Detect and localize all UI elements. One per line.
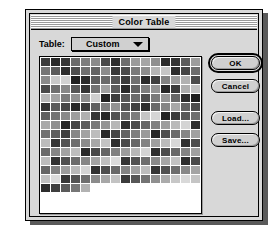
color-swatch[interactable]	[101, 157, 111, 166]
color-swatch[interactable]	[181, 58, 191, 67]
color-swatch[interactable]	[191, 76, 201, 85]
color-swatch[interactable]	[161, 148, 171, 157]
color-swatch[interactable]	[141, 103, 151, 112]
color-swatch[interactable]	[81, 166, 91, 175]
color-swatch[interactable]	[131, 112, 141, 121]
color-swatch[interactable]	[71, 67, 81, 76]
color-swatch[interactable]	[131, 94, 141, 103]
color-swatch[interactable]	[81, 157, 91, 166]
color-swatch[interactable]	[141, 139, 151, 148]
color-swatch[interactable]	[101, 130, 111, 139]
color-swatch[interactable]	[141, 166, 151, 175]
color-swatch[interactable]	[131, 67, 141, 76]
window-titlebar[interactable]: Color Table	[31, 15, 257, 30]
color-swatch[interactable]	[121, 130, 131, 139]
color-swatch[interactable]	[151, 148, 161, 157]
color-swatch[interactable]	[61, 58, 71, 67]
color-swatch[interactable]	[141, 67, 151, 76]
ok-button[interactable]: OK	[211, 56, 260, 70]
color-swatch[interactable]	[81, 130, 91, 139]
color-swatch[interactable]	[51, 67, 61, 76]
color-swatch[interactable]	[151, 121, 161, 130]
color-swatch[interactable]	[71, 94, 81, 103]
color-swatch[interactable]	[81, 67, 91, 76]
color-swatch[interactable]	[151, 76, 161, 85]
color-swatch[interactable]	[131, 175, 141, 184]
color-swatch[interactable]	[81, 184, 91, 193]
color-swatch[interactable]	[51, 175, 61, 184]
color-swatch[interactable]	[141, 94, 151, 103]
color-swatch[interactable]	[101, 148, 111, 157]
color-swatch[interactable]	[81, 139, 91, 148]
color-swatch[interactable]	[101, 67, 111, 76]
color-swatch[interactable]	[111, 67, 121, 76]
color-swatch[interactable]	[81, 148, 91, 157]
color-swatch[interactable]	[111, 103, 121, 112]
color-swatch[interactable]	[101, 94, 111, 103]
color-swatch[interactable]	[161, 112, 171, 121]
color-swatch[interactable]	[71, 157, 81, 166]
color-swatch[interactable]	[121, 139, 131, 148]
color-swatch[interactable]	[71, 148, 81, 157]
color-swatch[interactable]	[161, 94, 171, 103]
color-swatch[interactable]	[71, 121, 81, 130]
color-swatch[interactable]	[51, 148, 61, 157]
color-swatch[interactable]	[181, 67, 191, 76]
color-swatch[interactable]	[61, 175, 71, 184]
save-button[interactable]: Save...	[211, 133, 260, 147]
color-swatch[interactable]	[111, 175, 121, 184]
color-swatch[interactable]	[171, 94, 181, 103]
color-swatch[interactable]	[111, 166, 121, 175]
color-swatch[interactable]	[61, 67, 71, 76]
color-swatch[interactable]	[171, 76, 181, 85]
color-swatch[interactable]	[141, 157, 151, 166]
color-swatch[interactable]	[171, 103, 181, 112]
color-swatch[interactable]	[71, 85, 81, 94]
color-swatch[interactable]	[101, 175, 111, 184]
color-swatch[interactable]	[111, 58, 121, 67]
color-swatch[interactable]	[191, 85, 201, 94]
color-swatch[interactable]	[41, 184, 51, 193]
color-swatch[interactable]	[181, 112, 191, 121]
color-swatch[interactable]	[181, 94, 191, 103]
color-swatch[interactable]	[51, 121, 61, 130]
color-swatch[interactable]	[101, 76, 111, 85]
color-swatch[interactable]	[41, 157, 51, 166]
color-swatch[interactable]	[101, 112, 111, 121]
color-swatch[interactable]	[161, 175, 171, 184]
color-swatch[interactable]	[171, 166, 181, 175]
color-swatch[interactable]	[41, 130, 51, 139]
color-swatch[interactable]	[121, 157, 131, 166]
color-swatch[interactable]	[81, 175, 91, 184]
color-swatch[interactable]	[71, 184, 81, 193]
color-swatch[interactable]	[191, 58, 201, 67]
color-swatch[interactable]	[121, 94, 131, 103]
color-swatch[interactable]	[81, 103, 91, 112]
color-swatch[interactable]	[41, 67, 51, 76]
color-swatch[interactable]	[61, 166, 71, 175]
color-swatch[interactable]	[151, 139, 161, 148]
color-swatch[interactable]	[91, 148, 101, 157]
color-swatch[interactable]	[91, 121, 101, 130]
color-swatch[interactable]	[111, 121, 121, 130]
color-swatch[interactable]	[41, 139, 51, 148]
color-swatch[interactable]	[121, 58, 131, 67]
color-swatch[interactable]	[181, 175, 191, 184]
color-swatch[interactable]	[171, 67, 181, 76]
color-swatch[interactable]	[171, 112, 181, 121]
color-swatch[interactable]	[151, 94, 161, 103]
color-swatch[interactable]	[101, 139, 111, 148]
color-swatch[interactable]	[91, 157, 101, 166]
color-swatch[interactable]	[161, 85, 171, 94]
color-swatch[interactable]	[61, 94, 71, 103]
color-swatch[interactable]	[191, 157, 201, 166]
color-swatch[interactable]	[121, 76, 131, 85]
color-swatch[interactable]	[151, 157, 161, 166]
color-swatch[interactable]	[61, 130, 71, 139]
color-swatch[interactable]	[171, 148, 181, 157]
color-swatch[interactable]	[41, 121, 51, 130]
color-swatch[interactable]	[51, 112, 61, 121]
color-swatch[interactable]	[51, 103, 61, 112]
color-swatch[interactable]	[131, 103, 141, 112]
color-swatch[interactable]	[121, 148, 131, 157]
